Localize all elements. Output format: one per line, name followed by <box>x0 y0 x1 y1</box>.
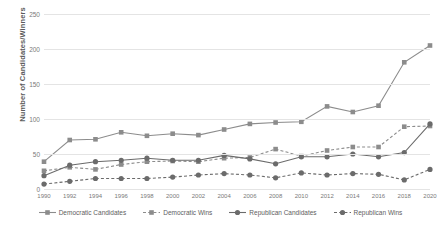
data-point-marker <box>93 159 98 164</box>
data-point-marker <box>67 179 72 184</box>
y-axis-tick-label: 50 <box>33 151 40 158</box>
data-point-marker <box>427 121 432 126</box>
data-point-marker <box>41 182 46 187</box>
x-axis-tick-label: 2012 <box>320 193 333 199</box>
x-axis-tick-label: 2016 <box>372 193 385 199</box>
data-point-marker <box>119 158 124 163</box>
data-point-marker <box>93 167 98 172</box>
data-point-marker <box>67 163 72 168</box>
data-point-marker <box>273 161 278 166</box>
data-point-marker <box>428 43 433 48</box>
x-axis-tick-label: 1992 <box>63 193 76 199</box>
x-axis-tick-label: 2002 <box>192 193 205 199</box>
y-axis-tick-label: 250 <box>29 11 40 18</box>
data-point-marker <box>144 176 149 181</box>
data-point-marker <box>119 130 124 135</box>
data-point-marker <box>324 172 329 177</box>
gridline <box>44 119 430 120</box>
data-point-marker <box>222 171 227 176</box>
data-point-marker <box>93 137 98 142</box>
data-point-marker <box>402 177 407 182</box>
x-axis-tick-label: 2006 <box>243 193 256 199</box>
x-axis-tick-label: 2008 <box>269 193 282 199</box>
series-layer <box>44 14 430 189</box>
legend-item-1[interactable]: Democratic Wins <box>143 208 212 217</box>
legend-marker-icon <box>334 208 351 217</box>
data-point-marker <box>247 172 252 177</box>
legend-item-2[interactable]: Republican Candidates <box>229 208 316 217</box>
x-axis-tick-label: 1998 <box>140 193 153 199</box>
data-point-marker <box>41 173 46 178</box>
data-point-marker <box>299 120 304 125</box>
chart-legend: Democratic CandidatesDemocratic WinsRepu… <box>0 208 441 217</box>
data-point-marker <box>170 131 175 136</box>
gridline <box>44 189 430 190</box>
plot-area: 0501001502002501990199219941996199820002… <box>44 14 430 189</box>
data-point-marker <box>376 145 381 150</box>
data-point-marker <box>351 145 356 150</box>
legend-item-0[interactable]: Democratic Candidates <box>39 208 127 217</box>
data-point-marker <box>273 175 278 180</box>
gridline <box>44 154 430 155</box>
gridline <box>44 49 430 50</box>
data-point-marker <box>351 110 356 115</box>
data-point-marker <box>145 134 150 139</box>
data-point-marker <box>93 176 98 181</box>
data-point-marker <box>350 171 355 176</box>
data-point-marker <box>247 156 252 161</box>
data-point-marker <box>248 122 253 127</box>
x-axis-tick-label: 2000 <box>166 193 179 199</box>
x-axis-tick-label: 2014 <box>346 193 359 199</box>
data-point-marker <box>325 148 330 153</box>
x-axis-tick-label: 2018 <box>398 193 411 199</box>
x-axis-tick-label: 2020 <box>423 193 436 199</box>
data-point-marker <box>144 156 149 161</box>
series-line-3 <box>44 169 430 184</box>
series-line-1 <box>44 126 430 171</box>
y-axis-tick-label: 0 <box>36 186 40 193</box>
data-point-marker <box>299 170 304 175</box>
legend-label: Democratic Wins <box>163 209 212 216</box>
legend-item-3[interactable]: Republican Wins <box>334 208 403 217</box>
y-axis-title: Number of Candidates/Winners <box>18 0 27 135</box>
y-axis-tick-label: 150 <box>29 81 40 88</box>
series-line-0 <box>44 46 430 162</box>
legend-marker-icon <box>39 208 56 217</box>
data-point-marker <box>42 159 47 164</box>
data-point-marker <box>273 120 278 125</box>
y-axis-tick-label: 200 <box>29 46 40 53</box>
data-point-marker <box>402 60 407 65</box>
data-point-marker <box>170 158 175 163</box>
data-point-marker <box>67 138 72 143</box>
data-point-marker <box>170 175 175 180</box>
x-axis-tick-label: 1994 <box>89 193 102 199</box>
x-axis-tick-label: 2004 <box>217 193 230 199</box>
legend-marker-icon <box>229 208 246 217</box>
data-point-marker <box>196 158 201 163</box>
x-axis-tick-label: 1990 <box>37 193 50 199</box>
x-axis-tick-label: 1996 <box>115 193 128 199</box>
legend-label: Republican Candidates <box>249 209 316 216</box>
gridline <box>44 14 430 15</box>
data-point-marker <box>402 124 407 129</box>
legend-label: Democratic Candidates <box>59 209 127 216</box>
data-point-marker <box>196 172 201 177</box>
gridline <box>44 84 430 85</box>
data-point-marker <box>376 172 381 177</box>
chart-container: Number of Candidates/Winners 05010015020… <box>0 0 441 232</box>
legend-label: Republican Wins <box>354 209 403 216</box>
data-point-marker <box>273 147 278 152</box>
data-point-marker <box>376 103 381 108</box>
data-point-marker <box>119 176 124 181</box>
x-axis-tick-label: 2010 <box>295 193 308 199</box>
data-point-marker <box>222 127 227 132</box>
data-point-marker <box>42 169 47 174</box>
data-point-marker <box>325 104 330 109</box>
data-point-marker <box>427 167 432 172</box>
y-axis-tick-label: 100 <box>29 116 40 123</box>
data-point-marker <box>196 133 201 138</box>
legend-marker-icon <box>143 208 160 217</box>
